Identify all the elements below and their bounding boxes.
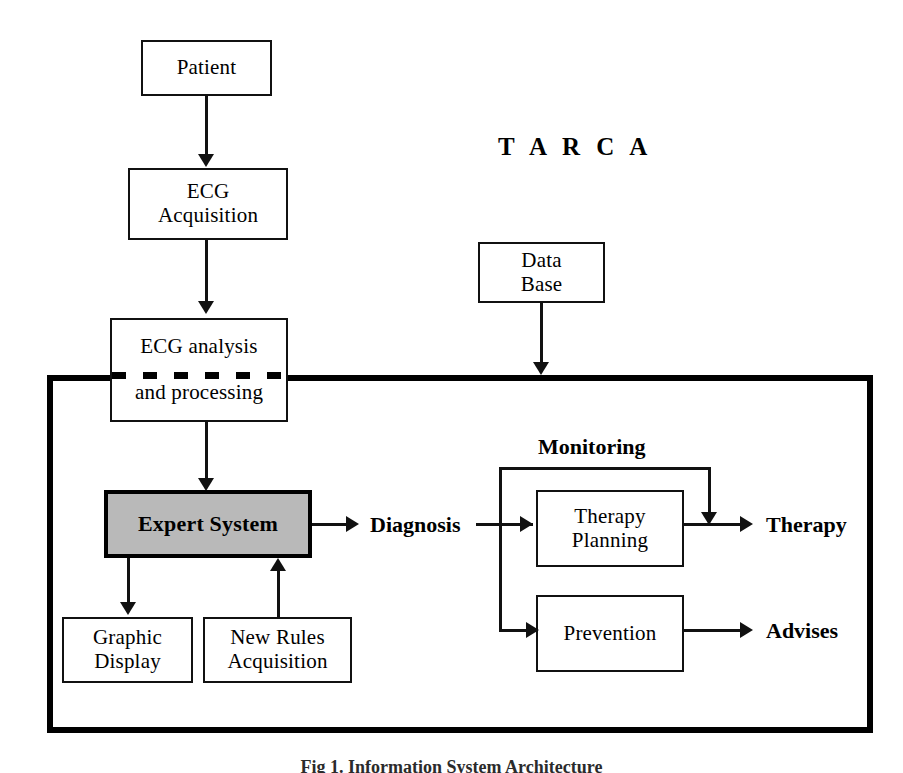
arrowhead-right-therapy-planning	[520, 516, 533, 532]
connector-ecg-analysis-to-expert-system	[205, 422, 208, 480]
box-therapy-planning-line2: Planning	[572, 529, 648, 553]
label-therapy: Therapy	[766, 512, 847, 538]
box-expert-system-label: Expert System	[138, 512, 278, 537]
box-patient[interactable]: Patient	[141, 40, 272, 96]
connector-expert-system-to-graphic-display	[127, 558, 130, 605]
box-expert-system[interactable]: Expert System	[104, 490, 312, 558]
arrowhead-right-advises	[740, 622, 753, 638]
box-therapy-planning-line1: Therapy	[574, 505, 645, 529]
boundary-dashed-segment	[112, 372, 288, 379]
arrowhead-down-boundary	[533, 362, 549, 375]
box-patient-label: Patient	[177, 56, 237, 80]
monitoring-loop-top	[499, 467, 711, 470]
box-new-rules-acquisition[interactable]: New Rules Acquisition	[203, 617, 352, 683]
box-ecg-analysis[interactable]: ECG analysis and processing	[110, 318, 288, 422]
arrowhead-down-therapy-line	[701, 512, 717, 525]
box-graphic-display-line2: Display	[94, 650, 161, 674]
connector-new-rules-to-expert-system	[277, 570, 280, 617]
arrowhead-down-ecg-analysis	[198, 301, 214, 314]
box-ecg-acquisition-line2: Acquisition	[158, 204, 258, 228]
connector-expert-system-to-diagnosis	[312, 523, 348, 526]
box-data-base-line1: Data	[521, 249, 561, 273]
arrowhead-down-graphic-display	[120, 602, 136, 615]
connector-data-base-to-boundary	[540, 303, 543, 365]
box-ecg-acquisition-line1: ECG	[187, 180, 230, 204]
box-prevention[interactable]: Prevention	[536, 595, 684, 672]
arrowhead-up-expert-system	[270, 558, 286, 571]
arrowhead-right-diagnosis	[346, 516, 359, 532]
arrowhead-right-prevention	[526, 622, 539, 638]
box-new-rules-line1: New Rules	[230, 626, 325, 650]
label-diagnosis: Diagnosis	[370, 512, 460, 538]
arrowhead-right-therapy	[740, 516, 753, 532]
box-data-base[interactable]: Data Base	[478, 242, 605, 303]
connector-ecg-acquisition-to-ecg-analysis	[205, 240, 208, 302]
box-data-base-line2: Base	[521, 273, 563, 297]
figure-canvas: T A R C A Patient ECG Acquisition ECG an…	[0, 0, 903, 773]
label-advises: Advises	[766, 618, 838, 644]
box-graphic-display-line1: Graphic	[93, 626, 162, 650]
box-prevention-label: Prevention	[564, 622, 657, 646]
figure-caption: Fig 1. Information System Architecture	[0, 757, 903, 773]
monitoring-loop-left-spine	[499, 467, 502, 632]
connector-prevention-to-advises	[684, 629, 747, 632]
box-ecg-analysis-line2: and processing	[135, 381, 263, 405]
box-therapy-planning[interactable]: Therapy Planning	[536, 490, 684, 567]
box-graphic-display[interactable]: Graphic Display	[62, 617, 193, 683]
figure-title: T A R C A	[498, 133, 652, 161]
box-ecg-acquisition[interactable]: ECG Acquisition	[128, 168, 288, 240]
box-ecg-analysis-line1: ECG analysis	[140, 335, 257, 359]
monitoring-loop-right-descent	[708, 467, 711, 515]
label-monitoring: Monitoring	[538, 434, 646, 460]
box-new-rules-line2: Acquisition	[227, 650, 327, 674]
connector-patient-to-ecg-acquisition	[205, 96, 208, 155]
arrowhead-down-ecg-acquisition	[198, 154, 214, 167]
